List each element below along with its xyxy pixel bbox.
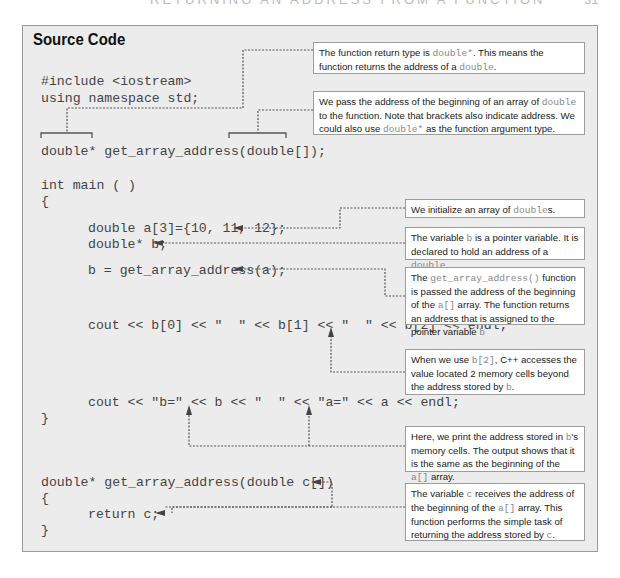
note-text: . <box>552 529 555 540</box>
note-text: We initialize an array of <box>411 204 513 215</box>
code-term: double* <box>383 124 423 135</box>
code-line-open-brace: { <box>41 194 49 210</box>
code-line-declare-array: double a[3]={10, 11, 12}; <box>88 221 286 237</box>
note-pass-address: We pass the address of the beginning of … <box>313 91 585 135</box>
note-pointer-variable: The variable b is a pointer variable. It… <box>405 227 585 260</box>
code-term: a[] <box>438 300 455 311</box>
note-init-array: We initialize an array of doubles. <box>405 199 585 218</box>
note-text: The function return type is <box>319 47 433 58</box>
code-term: double <box>513 205 548 216</box>
note-text: . <box>494 61 497 72</box>
code-term: a[] <box>498 503 515 514</box>
note-print-address: Here, we print the address stored in b's… <box>405 426 585 472</box>
note-text: We pass the address of the beginning of … <box>319 96 542 107</box>
note-text: When we use <box>411 354 472 365</box>
page-number: 31 <box>584 0 598 7</box>
note-text: The variable <box>411 488 466 499</box>
panel-title: Source Code <box>33 30 125 50</box>
note-index-access: When we use b[2], C++ accesses the value… <box>405 349 585 395</box>
note-function-call: The get_array_address() function is pass… <box>405 267 585 325</box>
note-text: The <box>411 272 430 283</box>
code-line-function-close: } <box>41 523 49 539</box>
code-line-function-signature: double* get_array_address(double c[]) <box>41 475 334 491</box>
note-text: array. <box>428 471 454 482</box>
code-line-function-open: { <box>41 491 49 507</box>
note-text: The variable <box>411 232 466 243</box>
code-term: double* <box>433 48 473 59</box>
note-return-type: The function return type is double*. Thi… <box>313 42 585 74</box>
code-line-declare-pointer: double* b; <box>88 237 167 253</box>
note-receive-address: The variable c receives the address of t… <box>405 483 585 541</box>
note-text: as the function argument type. <box>423 123 555 134</box>
code-term: b[2] <box>472 355 495 366</box>
code-line-prototype: double* get_array_address(double[]); <box>41 144 326 160</box>
code-term: b <box>479 327 485 338</box>
code-line-cout-addresses: cout << "b=" << b << " " << "a=" << a <<… <box>88 395 460 411</box>
code-line-using: using namespace std; <box>41 91 199 107</box>
code-line-assign-pointer: b = get_array_address(a); <box>88 263 286 279</box>
code-line-close-brace: } <box>41 411 49 427</box>
code-term: a[] <box>411 472 428 483</box>
running-header: RETURNING AN ADDRESS FROM A FUNCTION <box>150 0 590 6</box>
note-text: s. <box>548 204 555 215</box>
code-line-main-signature: int main ( ) <box>41 178 136 194</box>
code-line-return: return c; <box>88 507 159 523</box>
code-line-include: #include <iostream> <box>41 74 191 90</box>
code-term: get_array_address() <box>430 273 539 284</box>
code-term: double <box>542 97 577 108</box>
code-term: double <box>459 62 494 73</box>
note-text: Here, we print the address stored in <box>411 431 566 442</box>
note-text: . <box>512 381 515 392</box>
